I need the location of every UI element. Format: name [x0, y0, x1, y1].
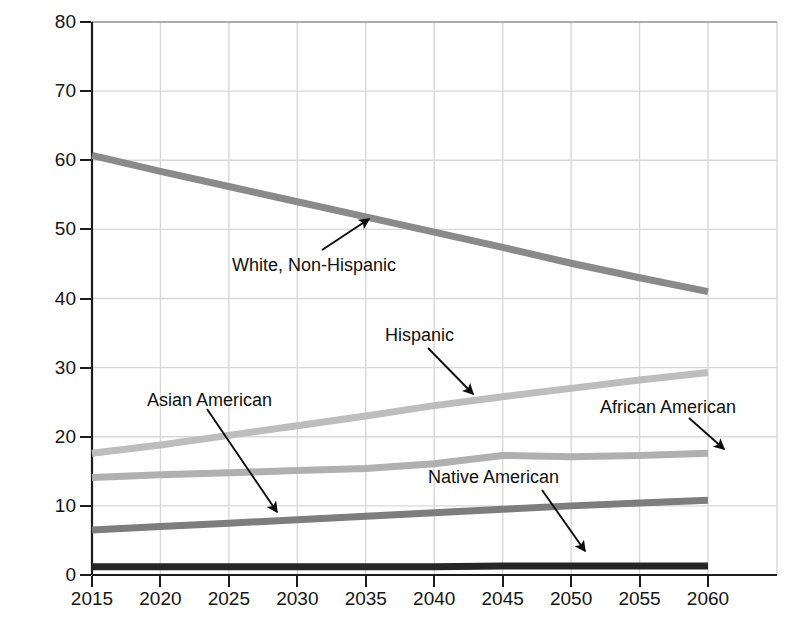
x-axis-tick-label: 2050 — [550, 588, 592, 610]
x-axis-tick-label: 2035 — [345, 588, 387, 610]
y-axis-tick-label: 0 — [30, 564, 76, 586]
series-annotation-label: White, Non-Hispanic — [232, 255, 396, 276]
y-axis-tick-label: 40 — [30, 288, 76, 310]
x-axis-tick-label: 2040 — [413, 588, 455, 610]
series-annotation-label: Native American — [428, 467, 559, 488]
y-axis-tick-mark — [80, 298, 91, 300]
series-annotation-label: African American — [600, 397, 736, 418]
series-line-native-american — [92, 566, 708, 567]
chart-plot-area — [0, 0, 788, 625]
y-axis-tick-label: 20 — [30, 426, 76, 448]
y-axis-tick-label: 10 — [30, 495, 76, 517]
x-axis-tick-mark — [365, 576, 367, 587]
chart-container: Percentage of the U.S. population 010203… — [0, 0, 788, 625]
x-axis-tick-label: 2060 — [687, 588, 729, 610]
y-axis-tick-label: 30 — [30, 357, 76, 379]
x-axis-tick-label: 2020 — [139, 588, 181, 610]
x-axis-tick-mark — [639, 576, 641, 587]
x-axis-tick-label: 2055 — [618, 588, 660, 610]
y-axis-tick-mark — [80, 574, 91, 576]
series-annotation-label: Asian American — [147, 390, 272, 411]
y-axis-tick-mark — [80, 159, 91, 161]
x-axis-tick-label: 2030 — [276, 588, 318, 610]
y-axis-tick-label: 50 — [30, 218, 76, 240]
x-axis-tick-label: 2025 — [208, 588, 250, 610]
y-axis-tick-label: 80 — [30, 11, 76, 33]
x-axis-tick-mark — [570, 576, 572, 587]
series-annotation-label: Hispanic — [385, 325, 454, 346]
y-axis-tick-mark — [80, 367, 91, 369]
y-axis-tick-mark — [80, 505, 91, 507]
x-axis-tick-mark — [433, 576, 435, 587]
y-axis-tick-label: 70 — [30, 80, 76, 102]
y-axis-tick-mark — [80, 90, 91, 92]
x-axis-tick-mark — [91, 576, 93, 587]
x-axis-tick-mark — [228, 576, 230, 587]
y-axis-tick-mark — [80, 228, 91, 230]
x-axis-tick-mark — [159, 576, 161, 587]
y-axis-tick-mark — [80, 21, 91, 23]
x-axis-tick-label: 2045 — [482, 588, 524, 610]
x-axis-tick-mark — [707, 576, 709, 587]
x-axis-tick-mark — [502, 576, 504, 587]
y-axis-tick-label: 60 — [30, 149, 76, 171]
x-axis-tick-label: 2015 — [71, 588, 113, 610]
x-axis-tick-mark — [296, 576, 298, 587]
y-axis-tick-mark — [80, 436, 91, 438]
